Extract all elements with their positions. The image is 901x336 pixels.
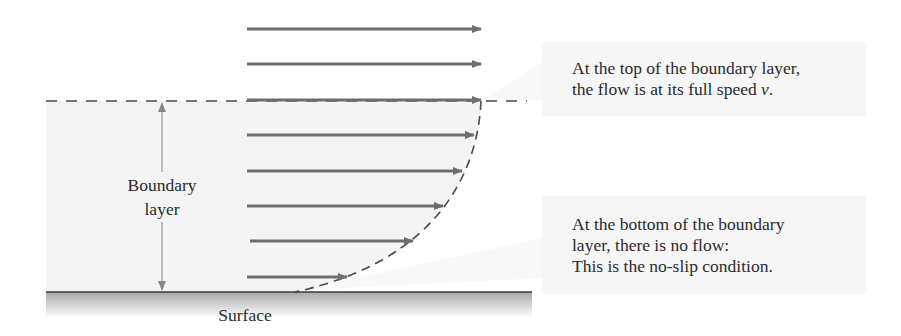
callout-bottom-line3: This is the no-slip condition. bbox=[572, 256, 866, 277]
callout-bottom: At the bottom of the boundary layer, the… bbox=[542, 196, 866, 294]
callout-top: At the top of the boundary layer, the fl… bbox=[542, 42, 866, 116]
surface-label-text: Surface bbox=[218, 305, 271, 325]
callout-top-line2: the flow is at its full speed v. bbox=[572, 79, 866, 100]
boundary-layer-label-line2: layer bbox=[112, 197, 212, 221]
boundary-layer-label-line1: Boundary bbox=[112, 173, 212, 197]
callout-top-leader bbox=[482, 62, 542, 100]
callout-bottom-line1: At the bottom of the boundary bbox=[572, 214, 866, 235]
surface-shading bbox=[46, 292, 532, 318]
callout-top-line1: At the top of the boundary layer, bbox=[572, 58, 866, 79]
velocity-symbol-suffix: . bbox=[769, 79, 773, 99]
boundary-layer-label: Boundary layer bbox=[112, 173, 212, 221]
callout-top-line2-text: the flow is at its full speed bbox=[572, 79, 761, 99]
surface-label: Surface bbox=[205, 303, 285, 327]
velocity-symbol: v bbox=[761, 79, 769, 99]
callout-bottom-line2: layer, there is no flow: bbox=[572, 235, 866, 256]
